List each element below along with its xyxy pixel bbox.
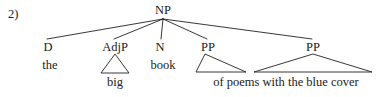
node-label-d: D xyxy=(43,41,52,54)
terminal-book: book xyxy=(151,59,176,72)
node-label-adjp: AdjP xyxy=(102,41,128,54)
item-number-label: 2) xyxy=(8,8,18,21)
syntax-tree-figure: 2) NP D AdjP N PP PP the big book of poe… xyxy=(0,0,382,97)
terminal-the: the xyxy=(42,59,57,72)
node-label-pp-1: PP xyxy=(201,41,215,54)
node-label-np: NP xyxy=(155,4,171,17)
branch-np-to-n xyxy=(161,19,163,39)
node-label-pp-2: PP xyxy=(306,41,320,54)
triangle-pp1 xyxy=(196,54,246,72)
terminal-big: big xyxy=(107,76,123,89)
branch-np-to-adjp xyxy=(114,19,163,39)
node-label-n: N xyxy=(155,41,164,54)
terminal-pp-string: of poems with the blue cover xyxy=(213,76,358,89)
branch-np-to-d xyxy=(47,19,163,39)
triangle-pp2 xyxy=(254,54,372,72)
triangle-adjp xyxy=(101,54,129,73)
